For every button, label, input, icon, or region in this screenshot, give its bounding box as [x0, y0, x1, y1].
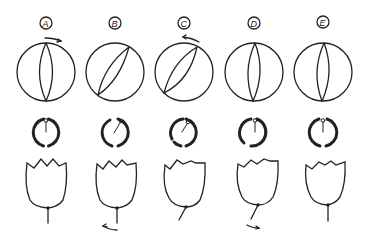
sphere-band	[248, 43, 260, 101]
panel-d: D	[225, 17, 283, 229]
panel-c: C	[155, 17, 213, 220]
sphere-band	[164, 47, 197, 93]
tulip	[96, 160, 137, 223]
stem	[179, 207, 186, 220]
tulip	[306, 161, 346, 221]
sphere	[17, 43, 75, 101]
tulip	[237, 159, 278, 219]
panel-label-d: D	[251, 19, 258, 29]
panel-label-b: B	[112, 19, 118, 29]
tulip	[164, 160, 205, 220]
stem	[251, 205, 258, 219]
rotation-arrow-icon	[183, 37, 199, 42]
panel-label-a: A	[42, 19, 49, 29]
dial	[171, 119, 197, 146]
sphere	[86, 43, 144, 101]
sphere-band	[317, 43, 329, 101]
dial	[240, 119, 266, 146]
sphere	[294, 43, 352, 101]
sphere-band	[98, 47, 129, 95]
panel-label-e: E	[320, 18, 327, 28]
tulip	[26, 159, 67, 223]
panel-label-c: C	[181, 19, 188, 29]
arrow-head-icon	[103, 224, 107, 227]
sphere	[225, 43, 283, 101]
dial	[33, 119, 59, 146]
dial	[102, 119, 128, 146]
dial	[309, 119, 337, 146]
panel-e: E	[294, 16, 352, 221]
panel-b: B	[86, 17, 144, 230]
sphere-band	[40, 43, 53, 101]
figure-canvas: A B	[0, 0, 369, 241]
panel-a: A	[17, 17, 75, 223]
